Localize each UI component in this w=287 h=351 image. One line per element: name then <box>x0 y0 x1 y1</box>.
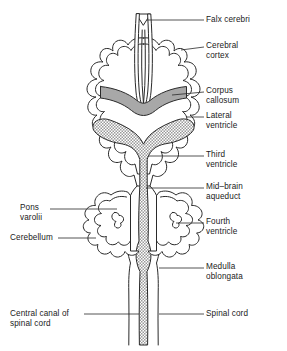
label-central-canal: Central canal of spinal cord <box>10 309 69 329</box>
leader-cerebral-cortex <box>181 47 204 50</box>
label-cerebral-cortex: Cerebral cortex <box>206 41 238 61</box>
label-spinal-cord: Spinal cord <box>206 309 248 319</box>
brain-diagram: Falx cerebri Cerebral cortex Corpus call… <box>0 0 287 351</box>
cerebellum-left-outer-folia <box>83 191 139 257</box>
label-cerebellum: Cerebellum <box>10 233 53 243</box>
label-falx-cerebri: Falx cerebri <box>206 15 250 25</box>
cerebellum-right-group <box>148 191 204 257</box>
brain-section-illustration <box>0 0 287 351</box>
label-medulla-oblongata: Medulla oblongata <box>206 262 243 282</box>
label-third-ventricle: Third ventricle <box>206 150 237 170</box>
label-pons-varolii: Pons varolii <box>20 203 42 223</box>
cerebellum-right-outer-folia <box>148 191 204 257</box>
label-lateral-ventricle: Lateral ventricle <box>206 111 237 131</box>
cerebellum-left-group <box>83 191 139 257</box>
label-corpus-callosum: Corpus callosum <box>206 86 239 106</box>
label-fourth-ventricle: Fourth ventricle <box>206 217 237 237</box>
label-midbrain-aqueduct: Mid–brain aqueduct <box>206 182 243 202</box>
